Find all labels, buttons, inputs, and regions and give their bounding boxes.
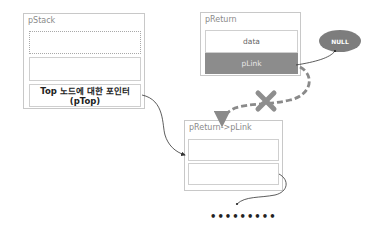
arrows-layer [0,0,376,238]
ptop-arrow [142,95,185,155]
broken-link-arrow [222,67,309,122]
cross-icon [258,93,274,109]
next-link-arrow [237,174,286,204]
plink-to-null-arrow [296,51,335,65]
